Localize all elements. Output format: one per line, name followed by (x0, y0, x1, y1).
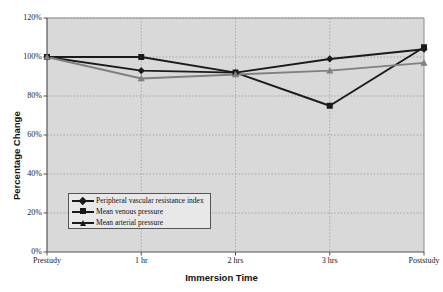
legend-item-mvp: Mean venous pressure (72, 206, 207, 217)
data-point-square (138, 54, 144, 60)
y-tick-label: 0% (0, 247, 42, 256)
chart-figure: Percentage Change Immersion Time 0%20%40… (0, 0, 443, 292)
chart-legend: Peripheral vascular resistance index Mea… (68, 193, 211, 229)
x-tick-label: 3 hrs (322, 256, 338, 265)
x-tick-label: Poststudy (408, 256, 439, 265)
y-tick-label: 60% (0, 130, 42, 139)
data-point-square (421, 44, 427, 50)
legend-label-pvri: Peripheral vascular resistance index (96, 196, 204, 206)
x-tick-label: Prestudy (33, 256, 61, 265)
triangle-marker-icon (72, 218, 94, 228)
data-point-square (327, 103, 333, 109)
y-tick-label: 100% (0, 52, 42, 61)
y-tick-label: 20% (0, 208, 42, 217)
x-tick-label: 1 hr (135, 256, 148, 265)
x-axis-title: Immersion Time (0, 272, 443, 283)
square-marker-icon (72, 207, 94, 217)
legend-label-map: Mean arterial pressure (96, 218, 163, 228)
x-tick-label: 2 hrs (228, 256, 244, 265)
y-axis-title: Percentage Change (11, 111, 22, 200)
y-tick-label: 120% (0, 13, 42, 22)
legend-label-mvp: Mean venous pressure (96, 207, 163, 217)
legend-item-pvri: Peripheral vascular resistance index (72, 195, 207, 206)
legend-item-map: Mean arterial pressure (72, 217, 207, 228)
chart-canvas (0, 0, 443, 292)
diamond-marker-icon (72, 196, 94, 206)
y-tick-label: 40% (0, 169, 42, 178)
y-tick-label: 80% (0, 91, 42, 100)
